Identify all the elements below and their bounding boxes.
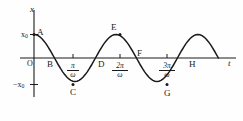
point-label-b: B	[47, 60, 53, 69]
fraction-denominator: ω	[67, 71, 79, 79]
point-marker-a	[33, 33, 36, 36]
point-label-c: C	[70, 88, 76, 97]
point-marker-g	[166, 83, 169, 86]
point-label-d: D	[98, 60, 105, 69]
point-marker-e	[119, 33, 122, 36]
x-tick-label-pi-over-omega: π ω	[67, 62, 79, 79]
x-axis-label: t	[228, 59, 231, 68]
x-tick-label-2pi-over-omega: 2π ω	[112, 62, 128, 79]
y-tick-label-neg-x0-text: −x0	[13, 80, 24, 89]
point-label-a: A	[37, 28, 44, 37]
fraction-denominator: ω	[159, 71, 175, 79]
y-tick-label-x0: x0	[21, 31, 28, 40]
oscillation-graph-figure: x t O x0 −x0 π ω 2π ω 3π ω A B C D E F G…	[0, 0, 243, 121]
origin-label: O	[27, 60, 33, 68]
y-axis-label: x	[30, 5, 34, 14]
point-label-g: G	[164, 89, 171, 98]
point-label-e: E	[111, 23, 117, 32]
point-marker-c	[72, 83, 75, 86]
x-tick-label-3pi-over-omega: 3π ω	[159, 62, 175, 79]
y-tick-label-x0-text: x0	[21, 30, 28, 39]
fraction-denominator: ω	[112, 71, 128, 79]
point-label-h: H	[189, 60, 196, 69]
point-label-f: F	[137, 49, 142, 58]
y-tick-label-neg-x0: −x0	[13, 81, 24, 90]
